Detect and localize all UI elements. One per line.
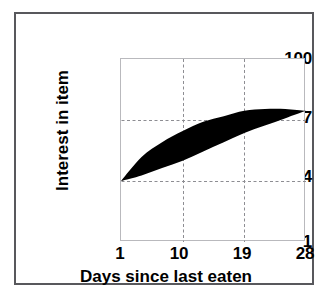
chart-figure: 100 67 34 1 1 10 19 28 Interest in item … — [0, 0, 332, 303]
band-fill — [121, 109, 306, 181]
x-axis-tick-label-10: 10 — [156, 245, 202, 262]
plot-canvas — [121, 59, 306, 242]
x-axis-tick-label-19: 19 — [219, 245, 265, 262]
y-axis-title: Interest in item — [54, 41, 71, 221]
x-axis-title: Days since last eaten — [16, 268, 316, 285]
gridlines — [121, 59, 306, 242]
x-axis-tick-label-28: 28 — [282, 245, 328, 262]
data-band — [121, 109, 306, 181]
x-axis-tick-label-1: 1 — [97, 245, 143, 262]
figure-outer-frame: 100 67 34 1 1 10 19 28 Interest in item … — [14, 12, 314, 285]
plot-area — [120, 58, 305, 241]
